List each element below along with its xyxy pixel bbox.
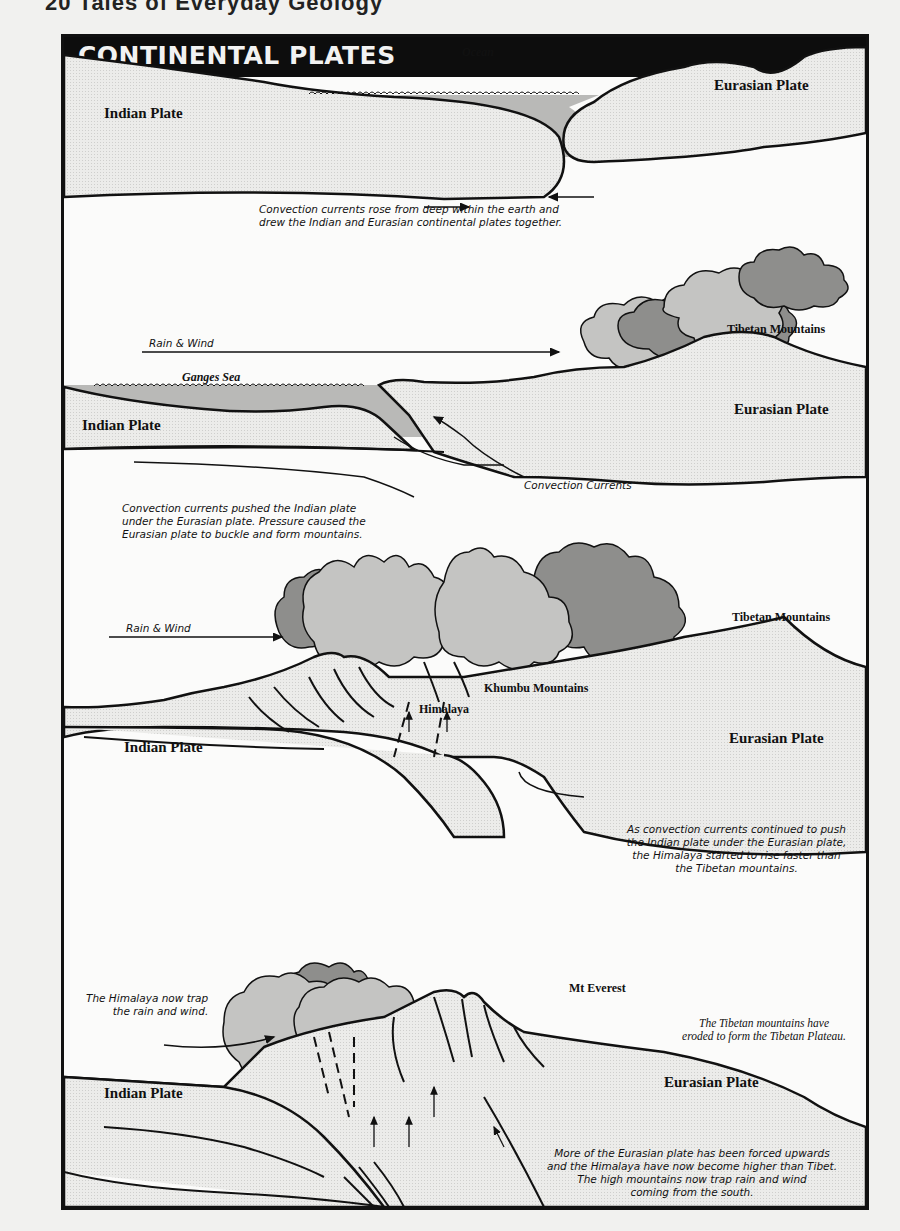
indian-plate-label: Indian Plate: [104, 105, 183, 122]
panel-4-caption: More of the Eurasian plate has been forc…: [532, 1147, 852, 1199]
ganges-sea-label: Ganges Sea: [182, 370, 240, 385]
indian-plate-label: Indian Plate: [104, 1085, 183, 1102]
eurasian-plate-label: Eurasian Plate: [734, 401, 829, 418]
mt-everest-label: Mt Everest: [569, 981, 626, 996]
indian-plate-shape: [64, 55, 564, 199]
panel-1-collision-start: [64, 47, 866, 207]
indian-plate-label: Indian Plate: [124, 739, 203, 756]
eurasian-plate-shape: [563, 47, 866, 162]
himalaya-label: Himalaya: [419, 702, 469, 717]
trap-note: The Himalaya now trapthe rain and wind.: [86, 992, 208, 1018]
page-header: 20 Tales of Everyday Geology: [45, 0, 383, 16]
tibetan-plateau-note: The Tibetan mountains haveeroded to form…: [664, 1017, 864, 1043]
rain-wind-label: Rain & Wind: [126, 622, 191, 635]
panel-3-caption: As convection currents continued to push…: [604, 823, 869, 875]
convection-arrow-lower: [134, 462, 414, 497]
panel-1-caption: Convection currents rose from deep withi…: [259, 203, 562, 229]
ocean-label: Ocean: [462, 45, 494, 60]
khumbu-mountains-label: Khumbu Mountains: [484, 681, 588, 696]
tibetan-mountains-label: Tibetan Mountains: [727, 322, 825, 337]
convection-currents-label: Convection Currents: [524, 479, 632, 492]
eurasian-plate-label: Eurasian Plate: [714, 77, 809, 94]
tibetan-mountains-label: Tibetan Mountains: [732, 610, 830, 625]
eurasian-plate-label: Eurasian Plate: [664, 1074, 759, 1091]
indian-plate-label: Indian Plate: [82, 417, 161, 434]
panel-2-caption: Convection currents pushed the Indian pl…: [122, 502, 366, 541]
eurasian-plate-label: Eurasian Plate: [729, 730, 824, 747]
rain-wind-label: Rain & Wind: [149, 337, 214, 350]
panel-3-himalaya-rising: [64, 543, 866, 855]
figure-frame: CONTINENTAL PLATES: [61, 34, 869, 1210]
